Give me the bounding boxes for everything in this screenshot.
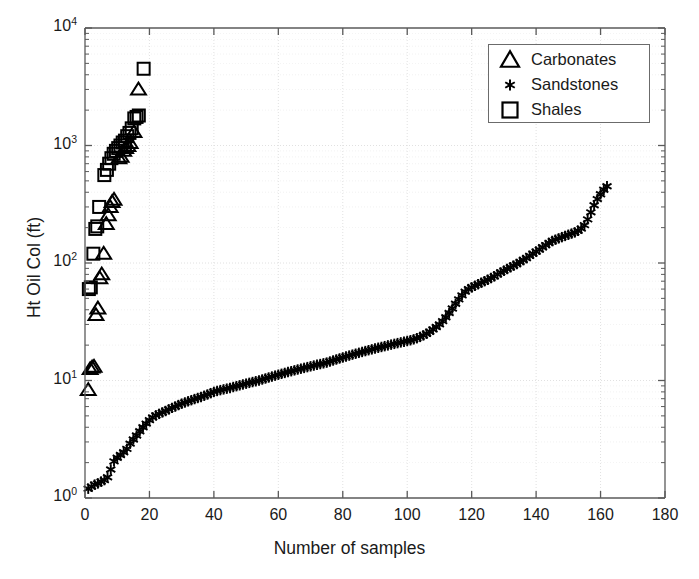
x-tick-label: 100 <box>377 506 437 524</box>
legend-marker-square-icon <box>489 99 531 121</box>
y-tick-label: 104 <box>17 17 77 35</box>
y-tick-label: 102 <box>17 252 77 270</box>
y-tick-label: 103 <box>17 135 77 153</box>
y-tick-label: 100 <box>17 487 77 505</box>
chart-legend: CarbonatesSandstonesShales <box>488 44 650 123</box>
x-tick-label: 160 <box>571 506 631 524</box>
legend-marker-triangle-icon <box>489 49 531 71</box>
legend-marker-asterisk-icon <box>489 74 531 96</box>
y-tick-label: 101 <box>17 370 77 388</box>
chart-figure: Number of samples Ht Oil Col (ft) 020406… <box>0 0 699 579</box>
legend-label: Sandstones <box>531 75 618 94</box>
legend-entry: Carbonates <box>489 47 649 72</box>
x-axis-label: Number of samples <box>0 538 699 559</box>
x-tick-label: 80 <box>313 506 373 524</box>
x-tick-label: 140 <box>506 506 566 524</box>
legend-label: Carbonates <box>531 50 616 69</box>
x-tick-label: 0 <box>55 506 115 524</box>
x-tick-label: 120 <box>442 506 502 524</box>
x-tick-label: 40 <box>184 506 244 524</box>
x-tick-label: 180 <box>635 506 695 524</box>
x-tick-label: 20 <box>119 506 179 524</box>
legend-entry: Shales <box>489 97 649 122</box>
legend-label: Shales <box>531 100 581 119</box>
legend-entry: Sandstones <box>489 72 649 97</box>
x-tick-label: 60 <box>248 506 308 524</box>
